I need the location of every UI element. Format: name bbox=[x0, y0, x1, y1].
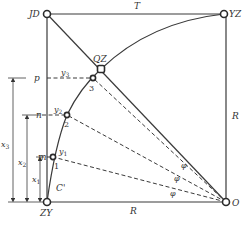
label-phi-3: φ bbox=[181, 161, 187, 170]
label-p: p bbox=[34, 73, 40, 83]
node-yz bbox=[221, 11, 228, 18]
label-phi-2: φ bbox=[174, 174, 180, 183]
chord-o-to-2 bbox=[67, 115, 226, 202]
node-zy bbox=[44, 199, 51, 206]
label-radius-bottom: R bbox=[129, 206, 137, 216]
label-radius-right: R bbox=[231, 111, 239, 121]
node-qz bbox=[98, 66, 105, 73]
label-qz: QZ bbox=[93, 54, 107, 64]
label-x2: x2 bbox=[18, 158, 27, 168]
label-o: O bbox=[232, 198, 240, 208]
label-n: n bbox=[36, 110, 42, 120]
curve-layout-diagram: JD YZ ZY O QZ T R R C' p n m 3 2 1 y3 y2… bbox=[0, 0, 245, 225]
label-point-1: 1 bbox=[54, 162, 59, 171]
label-point-2: 2 bbox=[64, 120, 69, 129]
label-y2: y2 bbox=[53, 105, 63, 115]
label-y3: y3 bbox=[60, 68, 70, 78]
label-tangent-t: T bbox=[134, 1, 141, 11]
label-x3: x3 bbox=[1, 140, 10, 150]
chord-o-to-1 bbox=[53, 157, 226, 202]
label-zy: ZY bbox=[39, 208, 53, 218]
label-curve-c: C' bbox=[56, 183, 65, 193]
node-point-3 bbox=[90, 75, 95, 80]
label-m: m bbox=[38, 152, 47, 162]
node-point-2 bbox=[64, 112, 69, 117]
chord-o-to-3 bbox=[93, 78, 226, 202]
label-jd: JD bbox=[27, 9, 40, 19]
node-point-1 bbox=[50, 154, 55, 159]
label-point-3: 3 bbox=[89, 84, 94, 93]
node-jd bbox=[44, 11, 51, 18]
label-x1: x1 bbox=[32, 175, 40, 185]
node-o bbox=[223, 199, 230, 206]
label-yz: YZ bbox=[229, 9, 242, 19]
label-y1: y1 bbox=[58, 147, 67, 157]
label-phi-1: φ bbox=[170, 189, 176, 198]
